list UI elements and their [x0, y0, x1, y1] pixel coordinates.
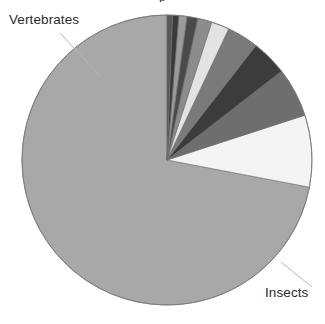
leader-line-insects: [281, 262, 312, 287]
pie-chart-canvas: [0, 0, 325, 324]
pie-slices-group: [22, 15, 312, 305]
pie-chart-figure: p Vertebrates Insects: [0, 0, 325, 324]
slice-label-insects: Insects: [265, 285, 308, 300]
slice-label-vertebrates: Vertebrates: [9, 12, 79, 27]
